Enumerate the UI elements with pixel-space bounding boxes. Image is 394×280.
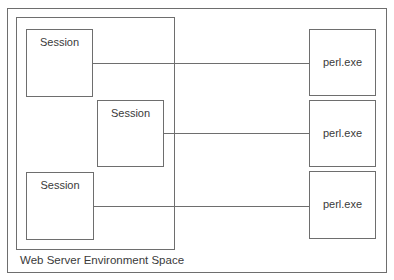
perl-process-box-3: perl.exe (309, 171, 376, 239)
session-label: Session (27, 179, 93, 191)
process-label: perl.exe (310, 127, 375, 139)
session-box-3: Session (26, 172, 94, 240)
session-box-1: Session (26, 29, 93, 97)
connection-line-1 (92, 63, 309, 64)
connection-line-2 (163, 133, 309, 134)
perl-process-box-2: perl.exe (309, 100, 376, 167)
perl-process-box-1: perl.exe (309, 29, 376, 96)
connection-line-3 (93, 206, 309, 207)
environment-label: Web Server Environment Space (20, 254, 184, 266)
session-label: Session (27, 36, 92, 48)
process-label: perl.exe (310, 198, 375, 210)
session-box-2: Session (97, 100, 164, 167)
process-label: perl.exe (310, 56, 375, 68)
session-label: Session (98, 107, 163, 119)
